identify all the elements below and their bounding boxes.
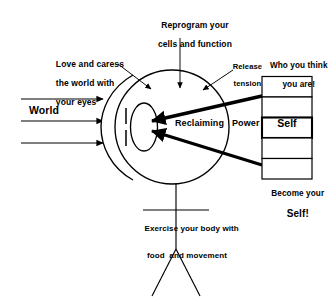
- ladder-cell-4[interactable]: [262, 138, 312, 159]
- label-love-line1: Love and caress: [56, 59, 124, 69]
- label-who-you-think-you-are: Who you think you are!: [255, 52, 333, 98]
- label-become-line2: Self!: [287, 208, 309, 219]
- diagram-canvas: Reprogram your cells and function Love a…: [0, 0, 334, 301]
- label-reprogram: Reprogram your cells and function: [145, 11, 235, 59]
- label-reprogram-line2: cells and function: [158, 39, 232, 49]
- label-love-and-caress: Love and caress the world with your eyes: [46, 50, 138, 117]
- label-who-line2: you are!: [282, 80, 315, 89]
- label-reclaiming: Reclaiming: [175, 118, 224, 128]
- ladder-cell-2[interactable]: [262, 97, 312, 118]
- become-your-self-arrow: [152, 131, 262, 165]
- ladder-cell-5[interactable]: [262, 159, 312, 180]
- label-self-cell: Self: [262, 117, 312, 129]
- label-power: Power: [232, 118, 260, 128]
- label-love-line3: your eyes: [56, 97, 97, 107]
- label-exercise-line1: Exercise your body with: [144, 224, 238, 233]
- label-become-line1: Become your: [271, 189, 324, 198]
- label-become-your-self: Become your Self!: [253, 180, 333, 228]
- label-love-line2: the world with: [56, 78, 115, 88]
- label-world: World: [29, 105, 59, 117]
- power-arrows-group: [152, 96, 262, 165]
- label-reprogram-line1: Reprogram your: [161, 20, 229, 30]
- label-who-line1: Who you think: [270, 61, 328, 70]
- label-exercise: Exercise your body with food and movemen…: [122, 216, 252, 279]
- label-exercise-line2: food and movement: [122, 252, 252, 261]
